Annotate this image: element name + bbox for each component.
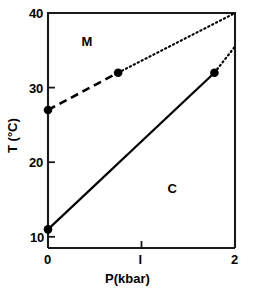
x-tick-label-0: 0 — [44, 253, 51, 266]
chart-figure: 40 30 20 10 0 l 2 T (°C) P(kbar) M C — [0, 0, 254, 289]
data-point — [114, 68, 123, 77]
data-point — [44, 225, 53, 234]
x-tick-label-2: 2 — [231, 253, 238, 266]
series-upper-boundary-extrapolated — [118, 13, 235, 73]
y-tick-label-40: 40 — [29, 7, 43, 20]
plot-frame — [48, 13, 235, 248]
series-lower-boundary-extrapolated — [214, 47, 235, 73]
data-point — [210, 68, 219, 77]
region-label-m: M — [81, 35, 92, 48]
region-label-c: C — [167, 182, 176, 195]
y-axis-title: T (°C) — [6, 118, 19, 153]
plot-canvas — [0, 0, 254, 289]
y-tick-label-20: 20 — [29, 156, 43, 169]
data-point — [44, 106, 53, 115]
y-tick-label-30: 30 — [29, 82, 43, 95]
series-upper-boundary — [48, 73, 118, 110]
x-axis-title: P(kbar) — [105, 272, 150, 285]
data-series-layer — [48, 13, 235, 229]
y-tick-label-10: 10 — [30, 231, 44, 244]
x-tick-label-1: l — [139, 253, 142, 266]
